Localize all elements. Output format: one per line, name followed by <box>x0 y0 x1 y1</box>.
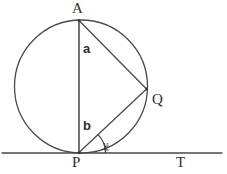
vertex-label-a: A <box>72 1 83 16</box>
circle-shape <box>15 20 148 153</box>
segment-label-a: a <box>83 42 90 55</box>
figure-canvas <box>0 0 227 174</box>
vertex-label-p: P <box>72 155 80 170</box>
point-a-dot <box>78 19 81 22</box>
geometry-figure: A Q P T a b y <box>0 0 227 174</box>
point-q-dot <box>145 88 148 91</box>
segment-label-b: b <box>83 119 91 132</box>
angle-label-y: y <box>103 139 108 150</box>
vertex-label-t: T <box>176 155 185 170</box>
vertex-label-q: Q <box>152 92 163 107</box>
